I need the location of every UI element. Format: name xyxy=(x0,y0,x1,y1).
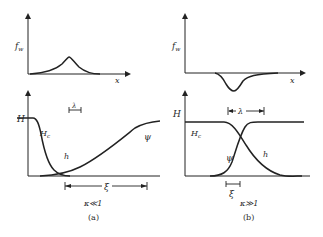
x-label: x xyxy=(115,76,120,85)
h-label: h xyxy=(64,152,69,161)
panel-a-caption: (a) xyxy=(88,213,99,222)
Hc-label: Hc xyxy=(190,129,201,139)
panel-b-caption: (b) xyxy=(243,213,254,222)
panel-a-bottom-plot: H Hc h ψ λ ξ xyxy=(16,93,160,192)
kappa-condition: κ≫1 xyxy=(239,199,258,208)
psi-curve xyxy=(210,122,304,176)
fw-peak-curve xyxy=(30,57,100,74)
fw-label: fw xyxy=(14,41,24,52)
panel-b: fw x H Hc ψ h λ xyxy=(171,16,310,222)
panel-a: fw x H Hc h ψ λ xyxy=(14,16,160,222)
panel-a-top-plot: fw x xyxy=(14,16,128,85)
svg-text:λ: λ xyxy=(71,102,76,110)
svg-text:ξ: ξ xyxy=(229,189,235,199)
psi-curve xyxy=(40,121,160,176)
Hc-label: Hc xyxy=(39,129,50,139)
lambda-dimension: λ xyxy=(69,102,81,113)
fw-dip-curve xyxy=(215,73,278,91)
panel-b-top-plot: fw x xyxy=(171,16,303,91)
H-axis-label: H xyxy=(172,109,181,119)
psi-label: ψ xyxy=(144,132,152,142)
kappa-condition: κ≪1 xyxy=(83,199,102,208)
svg-text:λ: λ xyxy=(237,107,243,116)
h-label: h xyxy=(263,150,268,159)
xi-dimension: ξ xyxy=(65,182,147,192)
lambda-dimension: λ xyxy=(228,107,264,116)
xi-dimension: ξ xyxy=(226,181,240,199)
Hc-h-curve xyxy=(17,118,70,176)
superconductor-interface-diagram: fw x H Hc h ψ λ xyxy=(0,0,323,237)
psi-label: ψ xyxy=(226,153,234,163)
H-axis-label: H xyxy=(16,114,25,124)
svg-text:ξ: ξ xyxy=(104,182,110,192)
fw-label: fw xyxy=(171,41,181,52)
x-label: x xyxy=(290,76,295,85)
panel-b-bottom-plot: H Hc ψ h λ ξ xyxy=(172,93,310,199)
